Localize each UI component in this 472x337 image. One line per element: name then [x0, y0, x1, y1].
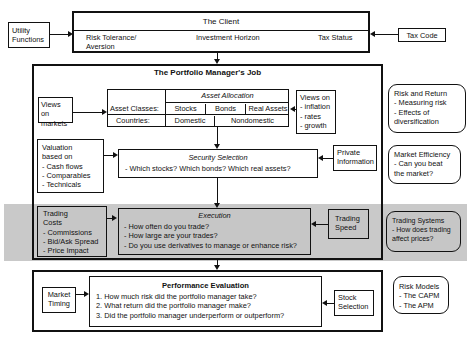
asset-class-stocks: Stocks: [166, 104, 206, 114]
performance-title: Performance Evaluation: [90, 281, 321, 290]
arrow-left-icon: [370, 31, 375, 37]
arrow-right-icon: [102, 109, 107, 115]
trading-speed-box: Trading Speed: [328, 209, 369, 239]
client-title: The Client: [74, 17, 368, 27]
country-nondomestic: Nondomestic: [216, 116, 289, 125]
performance-evaluation-box: Performance Evaluation 1. How much risk …: [89, 276, 322, 327]
market-efficiency-note: Market Efficiency - Can you beat the mar…: [388, 145, 461, 184]
market-timing-connector: [76, 294, 84, 295]
stock-selection-box: Stock Selection: [334, 290, 374, 316]
security-selection-title: Security Selection: [119, 153, 317, 162]
security-execution-connector: [217, 178, 218, 203]
private-info-connector: [323, 158, 333, 159]
security-selection-text: - Which stocks? Which bonds? Which real …: [125, 164, 291, 173]
pm-job-title: The Portfolio Manager's Job: [32, 68, 383, 78]
views-markets-connector: [73, 112, 102, 113]
arrow-right-icon: [68, 31, 73, 37]
arrow-right-icon: [84, 291, 89, 297]
asset-classes-label: Asset Classes:: [110, 104, 159, 113]
tax-code-connector: [375, 34, 398, 35]
aa-row-divider-2: [108, 114, 289, 115]
aa-row-divider-1: [165, 102, 289, 103]
private-information-box: Private Information: [333, 145, 377, 171]
views-on-macro-box: Views on - inflation - rates - growth: [296, 90, 336, 134]
asset-class-bonds: Bonds: [206, 104, 246, 114]
execution-questions: - How often do you trade? - How large ar…: [124, 222, 297, 250]
tax-code-box: Tax Code: [398, 28, 446, 42]
risk-models-note: Risk Models - The CAPM - The APM: [393, 276, 449, 314]
views-macro-connector: [294, 109, 296, 110]
views-on-markets-box: Views on markets: [38, 97, 73, 123]
utility-functions-box: Utility Functions: [8, 22, 50, 48]
arrow-left-icon: [318, 155, 323, 161]
risk-return-note: Risk and Return - Measuring risk - Effec…: [388, 84, 466, 133]
arrow-right-icon: [112, 215, 117, 221]
asset-allocation-title: Asset Allocation: [166, 91, 289, 100]
trading-speed-connector: [316, 224, 328, 225]
country-domestic: Domestic: [166, 116, 215, 127]
valuation-frame: Valuation based on - Cash flows - Compar…: [37, 139, 104, 193]
valuation-connector: [104, 155, 113, 156]
trading-costs-box: Trading Costs - Commissions - Bid/Ask Sp…: [37, 206, 107, 257]
client-risk-tolerance: Risk Tolerance/ Aversion: [86, 33, 136, 52]
utility-connector: [50, 34, 68, 35]
client-investment-horizon: Investment Horizon: [196, 33, 260, 42]
trading-systems-note: Trading Systems - How does trading affec…: [386, 211, 461, 252]
arrow-left-icon: [311, 221, 316, 227]
security-selection-box: Security Selection - Which stocks? Which…: [118, 149, 318, 178]
stock-selection-connector: [327, 303, 334, 304]
client-divider: [74, 30, 368, 31]
performance-questions: 1. How much risk did the portfolio manag…: [96, 292, 284, 320]
market-timing-box: Market Timing: [42, 287, 76, 313]
arrow-left-icon: [322, 300, 327, 306]
countries-label: Countries:: [116, 116, 150, 125]
client-tax-status: Tax Status: [318, 33, 353, 42]
asset-class-real-assets: Real Assets: [247, 104, 289, 113]
asset-allocation-table: Asset Allocation Asset Classes: Stocks B…: [107, 89, 289, 127]
client-box: The Client Risk Tolerance/ Aversion Inve…: [72, 11, 370, 53]
execution-box: Execution - How often do you trade? - Ho…: [118, 208, 311, 255]
execution-title: Execution: [119, 211, 310, 220]
aa-security-connector: [217, 127, 218, 144]
